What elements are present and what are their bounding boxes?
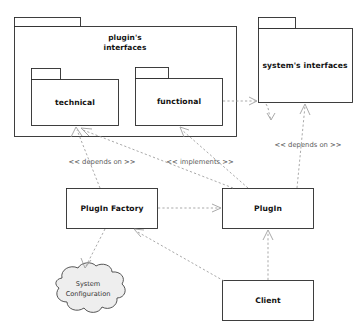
class-plugin-factory-label: PlugIn Factory [80,204,143,213]
edge-label-depends-on-right: << depends on >> [275,141,342,149]
package-plugins-interfaces-tab [15,18,81,27]
edge-factory-config-line [86,229,105,266]
class-plugin[interactable]: PlugIn [223,189,314,229]
edge-client-to-plugin-factory [134,229,224,281]
diagram-canvas: plugin's interfaces technical functional… [0,0,358,329]
package-functional-tab [136,68,169,79]
class-plugin-label: PlugIn [254,204,282,213]
class-plugin-factory[interactable]: PlugIn Factory [67,189,158,229]
edge-label-depends-on-left: << depends on >> [69,158,136,166]
cloud-label-line2: Configuration [66,290,111,298]
package-technical-label: technical [55,98,95,107]
edge-label-implements: << implements >> [166,158,233,166]
edge-hook-arrowhead [267,113,275,120]
edge-client-to-plugin [263,230,273,280]
package-systems-interfaces-tab [259,18,296,29]
package-technical-tab [32,69,61,80]
edge-plugin-factory-to-plugin [158,204,221,212]
package-functional-label: functional [157,97,201,106]
node-system-configuration[interactable]: System Configuration [56,263,125,313]
edge-client-factory-line [136,231,224,281]
edge-hook-systems-interfaces [266,104,275,120]
edge-plugin-systems-arrowhead [300,104,310,115]
package-plugins-interfaces-label-line2: interfaces [104,43,147,52]
package-plugins-interfaces-label-line1: plugin's [108,33,142,42]
package-systems-interfaces-label: system's interfaces [262,61,348,70]
edge-plugin-factory-to-system-configuration [81,229,105,268]
cloud-label-line1: System [76,280,101,288]
edge-hook-line [266,104,271,119]
class-client-label: Client [255,296,281,305]
package-diagram: plugin's interfaces technical functional… [0,0,358,329]
package-systems-interfaces[interactable]: system's interfaces [259,18,353,103]
class-client[interactable]: Client [223,281,314,321]
